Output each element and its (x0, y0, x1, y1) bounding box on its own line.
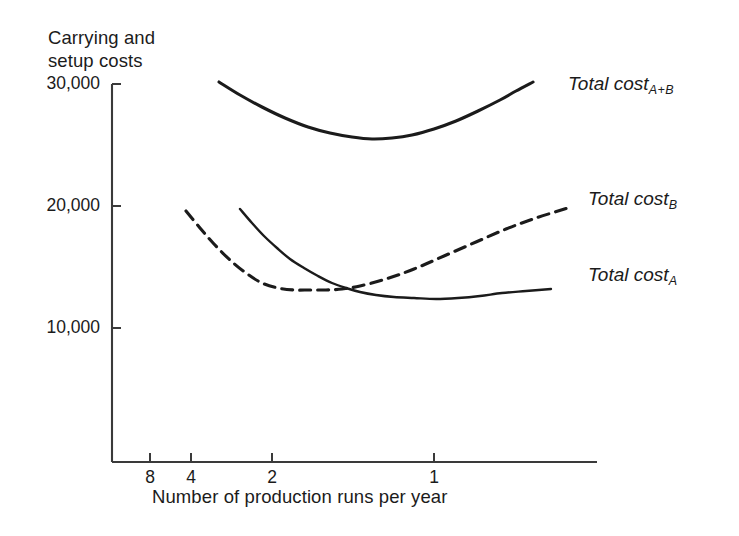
series-curve-3 (240, 209, 551, 299)
series-label-text: Total cost (568, 73, 649, 94)
series-label-text: Total cost (588, 188, 669, 209)
series-label-subscript: A (669, 274, 678, 288)
y-tick-label: 20,000 (10, 195, 100, 216)
series-curve-2 (186, 208, 568, 290)
chart-figure: Carrying and setup costs Number of produ… (0, 0, 739, 536)
x-tick-label: 8 (135, 467, 165, 488)
x-tick-label: 2 (257, 467, 287, 488)
series-label-total-cost-a: Total costA (588, 264, 677, 286)
axis-ticks (112, 84, 434, 462)
y-tick-label: 30,000 (10, 73, 100, 94)
axis-lines (112, 84, 597, 462)
series-label-subscript: B (669, 198, 678, 212)
series-label-total-cost-ab: Total costA+B (568, 73, 674, 95)
data-series (186, 82, 568, 299)
x-tick-label: 4 (176, 467, 206, 488)
y-tick-label: 10,000 (10, 317, 100, 338)
series-label-text: Total cost (588, 264, 669, 285)
series-label-total-cost-b: Total costB (588, 188, 677, 210)
x-axis-title: Number of production runs per year (152, 485, 447, 508)
x-tick-label: 1 (419, 467, 449, 488)
series-curve-1 (219, 82, 533, 139)
y-axis-title: Carrying and setup costs (48, 26, 155, 72)
series-label-subscript: A+B (649, 83, 674, 97)
